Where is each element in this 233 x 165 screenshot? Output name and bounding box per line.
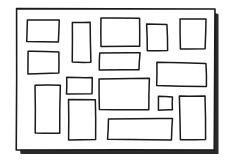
sketch-drawing: top-left-wideleft-upper-wideleft-tallupp…: [0, 0, 233, 165]
sketch-canvas: top-left-wideleft-upper-wideleft-tallupp…: [0, 0, 233, 165]
